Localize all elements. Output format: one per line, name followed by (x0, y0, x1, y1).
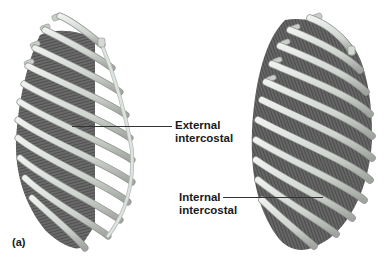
panel-label: (a) (12, 236, 25, 248)
right-rib-cage (252, 12, 372, 249)
external-leader-line (72, 126, 172, 127)
internal-intercostal-label: Internal intercostal (179, 191, 237, 217)
left-rib-cage (16, 12, 132, 248)
external-intercostal-label: External intercostal (175, 119, 233, 145)
intercostal-figure: External intercostal Internal intercosta… (0, 0, 390, 260)
internal-leader-line (223, 197, 323, 198)
